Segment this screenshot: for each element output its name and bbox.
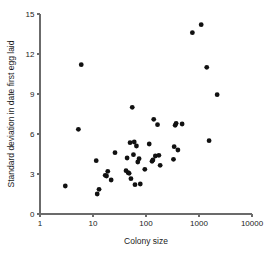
- data-point: [128, 140, 133, 145]
- data-point: [129, 176, 134, 181]
- y-tick-label: 6: [30, 130, 35, 139]
- data-point: [190, 30, 195, 35]
- x-axis: 110100100010000: [38, 214, 264, 228]
- x-tick-label: 1000: [190, 219, 208, 228]
- y-tick-label: 12: [26, 50, 35, 59]
- data-point: [79, 62, 84, 67]
- y-tick-label: 0: [30, 210, 35, 219]
- data-point: [156, 153, 161, 158]
- data-point: [172, 144, 177, 149]
- data-point: [109, 178, 114, 183]
- data-point: [133, 182, 138, 187]
- data-point: [63, 184, 68, 189]
- x-tick-label: 1: [38, 219, 43, 228]
- plot-canvas: 03691215 110100100010000 Standard deviat…: [0, 0, 274, 258]
- data-point: [76, 127, 81, 132]
- data-point: [215, 92, 220, 97]
- data-point: [174, 121, 179, 126]
- data-point: [125, 156, 130, 161]
- y-axis: 03691215: [26, 10, 40, 219]
- data-point: [176, 148, 181, 153]
- data-point: [131, 152, 136, 157]
- data-point: [97, 187, 102, 192]
- data-points-layer: [63, 22, 220, 196]
- data-point: [171, 157, 176, 162]
- data-point: [127, 171, 132, 176]
- data-point: [155, 122, 160, 127]
- scatter-plot-figure: 03691215 110100100010000 Standard deviat…: [0, 0, 274, 258]
- data-point: [137, 156, 142, 161]
- x-tick-label: 100: [139, 219, 153, 228]
- x-tick-label: 10: [89, 219, 98, 228]
- data-point: [94, 158, 99, 163]
- data-point: [199, 22, 204, 27]
- data-point: [207, 138, 212, 143]
- data-point: [142, 167, 147, 172]
- x-tick-label: 10000: [241, 219, 264, 228]
- y-tick-label: 3: [30, 170, 35, 179]
- data-point: [104, 174, 109, 179]
- data-point: [151, 117, 156, 122]
- y-tick-label: 15: [26, 10, 35, 19]
- data-point: [147, 142, 152, 147]
- data-point: [151, 158, 156, 163]
- data-point: [204, 65, 209, 70]
- data-point: [105, 169, 110, 174]
- y-tick-label: 9: [30, 90, 35, 99]
- data-point: [180, 122, 185, 127]
- data-point: [138, 182, 143, 187]
- data-point: [95, 192, 100, 197]
- y-axis-title: Standard deviation in date first egg lai…: [6, 40, 16, 187]
- x-axis-title: Colony size: [124, 236, 168, 246]
- data-point: [130, 105, 135, 110]
- data-point: [113, 150, 118, 155]
- data-point: [158, 163, 163, 168]
- data-point: [134, 144, 139, 149]
